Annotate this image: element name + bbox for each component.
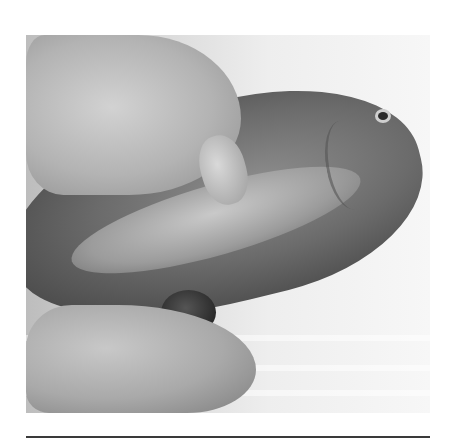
fish-eye: [378, 112, 388, 120]
divider-rule: [26, 436, 430, 438]
fish-photo: [26, 35, 430, 413]
lower-hand: [26, 305, 256, 413]
